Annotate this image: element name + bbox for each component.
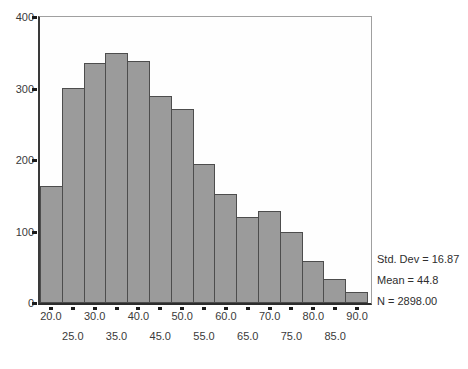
x-axis-label-65.0: 65.0 — [237, 330, 258, 342]
y-axis-tick-300 — [32, 88, 37, 91]
x-axis-label-70.0: 70.0 — [259, 310, 280, 322]
histogram-figure: 0100200300400 20.025.030.035.040.045.050… — [0, 0, 468, 369]
x-axis-label-80.0: 80.0 — [303, 310, 324, 322]
histogram-bar-55 — [193, 164, 216, 303]
x-axis-label-60.0: 60.0 — [215, 310, 236, 322]
x-axis-label-85.0: 85.0 — [324, 330, 345, 342]
y-axis-label-100: 100 — [0, 225, 34, 239]
x-axis-label-25.0: 25.0 — [62, 330, 83, 342]
x-axis-label-40.0: 40.0 — [128, 310, 149, 322]
y-axis-tick-400 — [32, 16, 37, 19]
histogram-bar-35 — [105, 53, 128, 303]
x-axis-label-55.0: 55.0 — [193, 330, 214, 342]
y-axis-tick-100 — [32, 231, 37, 234]
histogram-bar-85 — [323, 279, 346, 303]
histogram-bar-60 — [214, 194, 237, 303]
histogram-bar-65 — [236, 217, 259, 304]
x-axis-label-30.0: 30.0 — [84, 310, 105, 322]
stat-mean: Mean = 44.8 — [377, 270, 459, 291]
stat-std-dev: Std. Dev = 16.87 — [377, 249, 459, 270]
x-axis-tick-85.0 — [333, 307, 337, 310]
histogram-bar-80 — [302, 261, 325, 303]
x-axis-label-75.0: 75.0 — [281, 330, 302, 342]
x-axis-label-20.0: 20.0 — [40, 310, 61, 322]
x-axis-label-45.0: 45.0 — [150, 330, 171, 342]
histogram-bar-90 — [345, 292, 368, 303]
histogram-bar-75 — [280, 232, 303, 303]
y-axis-label-200: 200 — [0, 153, 34, 167]
y-axis-tick-0 — [32, 302, 37, 305]
histogram-bar-30 — [84, 63, 107, 303]
x-axis-label-50.0: 50.0 — [171, 310, 192, 322]
y-axis-label-400: 400 — [0, 10, 34, 24]
histogram-bar-50 — [171, 109, 194, 303]
histogram-bar-25 — [62, 88, 85, 303]
plot-area — [38, 16, 372, 305]
x-axis-tick-65.0 — [246, 307, 250, 310]
y-axis-label-0: 0 — [0, 296, 34, 310]
histogram-bar-45 — [149, 96, 172, 303]
x-axis-label-90.0: 90.0 — [346, 310, 367, 322]
x-axis-tick-45.0 — [158, 307, 162, 310]
x-axis-tick-35.0 — [115, 307, 119, 310]
bars-container — [40, 17, 368, 303]
histogram-bar-70 — [258, 211, 281, 303]
y-axis-tick-200 — [32, 159, 37, 162]
x-axis-label-35.0: 35.0 — [106, 330, 127, 342]
histogram-bar-20 — [40, 186, 63, 303]
y-axis-label-300: 300 — [0, 82, 34, 96]
stat-n: N = 2898.00 — [377, 291, 459, 312]
x-axis-tick-75.0 — [289, 307, 293, 310]
stats-annotation: Std. Dev = 16.87 Mean = 44.8 N = 2898.00 — [377, 249, 459, 312]
x-axis-tick-25.0 — [71, 307, 75, 310]
histogram-bar-40 — [127, 61, 150, 303]
x-axis-tick-55.0 — [202, 307, 206, 310]
